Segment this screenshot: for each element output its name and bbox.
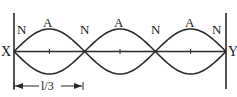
antinode-label-1: A xyxy=(43,15,53,30)
dimension-label: l/3 xyxy=(41,79,54,93)
node-label-2: N xyxy=(80,22,90,37)
antinode-label-3: A xyxy=(185,15,195,30)
dimension-arrow: l/3 xyxy=(14,79,83,93)
node-label-4: N xyxy=(212,22,222,37)
loop-2-upper xyxy=(85,29,156,52)
node-label-3: N xyxy=(151,22,161,37)
loop-1-lower xyxy=(14,52,85,75)
arrowhead-right xyxy=(74,83,82,89)
end-label-x: X xyxy=(1,44,11,59)
end-label-y: Y xyxy=(228,44,237,59)
loop-2-lower xyxy=(85,52,156,75)
antinode-label-2: A xyxy=(114,15,124,30)
loop-3-lower xyxy=(155,52,226,75)
standing-wave-diagram: X Y N N N N A A A l/3 xyxy=(0,0,237,97)
node-label-1: N xyxy=(17,22,27,37)
arrowhead-left xyxy=(15,83,23,89)
diagram-canvas: X Y N N N N A A A l/3 xyxy=(0,0,237,97)
